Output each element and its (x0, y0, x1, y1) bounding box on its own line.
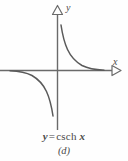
x-axis-arrowhead-icon (112, 66, 121, 76)
curve-csch-negative-branch (10, 71, 53, 116)
equation-relation: = (48, 130, 56, 142)
panel-label: (d) (0, 145, 128, 156)
x-axis-label: x (113, 56, 117, 67)
figure-container: y x y=csch x (d) (0, 0, 128, 161)
equation-label: y=csch x (0, 131, 128, 143)
curve-csch-positive-branch (61, 25, 104, 70)
y-axis-label: y (66, 2, 70, 13)
figure-caption: y=csch x (d) (0, 131, 128, 156)
equation-function-name: csch (56, 130, 76, 142)
equation-argument: x (80, 130, 86, 142)
y-axis-arrowhead-icon (53, 6, 63, 15)
